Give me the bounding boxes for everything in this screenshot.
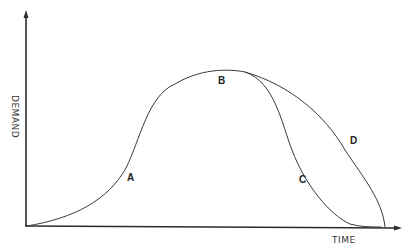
x-axis: [25, 226, 396, 228]
slow-decline-curve-d: [245, 72, 385, 227]
y-axis-label: DEMAND: [10, 95, 20, 138]
x-axis-label: TIME: [331, 235, 356, 245]
point-label-c: C: [299, 174, 306, 185]
rapid-decline-curve-c: [245, 72, 381, 227]
demand-curve-chart: A B C D TIME DEMAND: [0, 0, 414, 251]
point-label-b: B: [218, 75, 225, 86]
rising-demand-curve: [27, 70, 245, 226]
point-label-d: D: [350, 135, 357, 146]
x-axis-arrow-icon: [394, 226, 402, 231]
y-axis-arrow-icon: [24, 10, 29, 18]
point-label-a: A: [127, 172, 134, 183]
